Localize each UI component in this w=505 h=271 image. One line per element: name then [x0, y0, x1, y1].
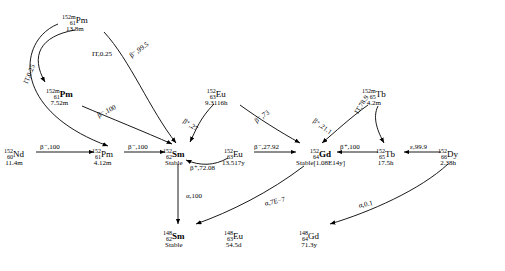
edge-label-alpha-01: α,0.1 [358, 199, 374, 210]
node-sm148: 14862Sm Stable [163, 224, 185, 250]
edge-label-beta-995: β⁻,99.5 [128, 40, 150, 59]
edge-label-betaplus-100: β⁺,100 [340, 143, 360, 151]
edge-label-alpha-7e-7: α,7E−7 [264, 195, 286, 207]
node-tb152: 15265Tb 17.5h [376, 142, 395, 168]
halflife: 11.4m [4, 160, 24, 168]
nuclide-label: 14863Eu [224, 230, 243, 242]
halflife: 9.3116h [205, 100, 228, 108]
nuclide-label: 152m61Pm [62, 14, 88, 26]
halflife: Stable [163, 160, 185, 168]
nuclide-label: 14864Gd [299, 230, 319, 242]
nuclide-label: 15262Sm [163, 148, 185, 160]
halflife: Stable [163, 242, 185, 250]
node-pm152m2: 152m61Pm 13.8m [62, 8, 88, 34]
halflife: Stable[1.08E14y] [296, 160, 345, 168]
nuclide-label: 15261Pm [92, 148, 113, 160]
edge-label-alpha-100: α,100 [186, 192, 202, 200]
edge-label-beta-2792: β⁻,27.92 [254, 143, 279, 151]
edge-label-it-025-b: IT,0.25 [92, 50, 112, 58]
node-gd148: 14864Gd 71.3y [299, 224, 319, 250]
nuclide-label: 15263Eu [207, 88, 226, 100]
node-nd152: 15260Nd 11.4m [4, 142, 24, 168]
node-gd152: 15264Gd Stable[1.08E14y] [296, 142, 345, 168]
halflife: 71.3y [299, 242, 319, 250]
nuclide-label: 14862Sm [163, 230, 185, 242]
nuclide-label: 15266Dy [438, 148, 458, 160]
nuclide-label: 152m61Pm [46, 88, 73, 100]
nuclide-label: 15260Nd [4, 148, 24, 160]
decay-chain-diagram: 152m61Pm 13.8m 152m61Pm 7.52m 15263Eu 9.… [0, 0, 505, 271]
edge-label-betaplus-27: β⁺,27 [181, 117, 199, 133]
halflife: 7.52m [46, 100, 73, 108]
halflife: 13.517y [222, 160, 245, 168]
decay-arrows [0, 0, 505, 271]
nuclide-label: 15264Gd [310, 148, 331, 160]
edge-label-it-025-a: IT,0.25 [22, 63, 37, 85]
node-dy152: 15266Dy 2.38h [438, 142, 458, 168]
edge-label-beta-100-pm152m: β⁻,100 [96, 103, 117, 119]
nuclide-label: 15265Tb [376, 148, 395, 160]
edge-label-epsilon-999: ε,99.9 [410, 143, 427, 151]
node-eu148: 14863Eu 54.5d [224, 224, 243, 250]
node-pm152m: 152m61Pm 7.52m [46, 82, 73, 108]
halflife: 17.5h [376, 160, 395, 168]
nuclide-label: 15263Eu [224, 148, 243, 160]
node-pm152: 15261Pm 4.12m [92, 142, 113, 168]
node-eu152-ground: 15263Eu 13.517y [222, 142, 245, 168]
halflife: 4.12m [92, 160, 113, 168]
edge-label-betaplus-211: β⁺,21.1 [311, 117, 333, 136]
halflife: 13.8m [62, 26, 88, 34]
halflife: 54.5d [224, 242, 243, 250]
edge-label-beta-100-pm152: β⁻,100 [128, 143, 148, 151]
halflife: 2.38h [438, 160, 458, 168]
node-eu152: 15263Eu 9.3116h [205, 82, 228, 108]
edge-label-betaplus-7208: β⁺,72.08 [190, 164, 215, 172]
edge-label-beta-73: β⁻,73 [253, 109, 271, 125]
edge-label-beta-100-nd152: β⁻,100 [40, 143, 60, 151]
node-sm152: 15262Sm Stable [163, 142, 185, 168]
